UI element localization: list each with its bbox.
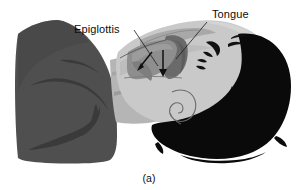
- figure-container: Epiglottis Tongue (a): [0, 0, 299, 190]
- label-tongue: Tongue: [212, 8, 249, 20]
- figure-caption: (a): [143, 172, 156, 184]
- label-epiglottis: Epiglottis: [74, 23, 120, 35]
- anatomy-illustration: Epiglottis Tongue (a): [0, 0, 299, 190]
